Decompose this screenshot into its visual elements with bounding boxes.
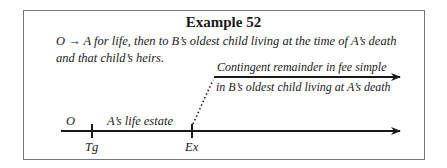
- label-life-estate: A’s life estate: [107, 114, 173, 129]
- label-tg: Tg: [85, 140, 98, 155]
- remainder-label-line2: in B’s oldest child living at A’s death: [216, 80, 391, 95]
- label-ex: Ex: [185, 140, 198, 155]
- remainder-label-line1: Contingent remainder in fee simple: [217, 60, 387, 75]
- label-o: O: [66, 114, 75, 129]
- dotted-connector: [193, 80, 213, 124]
